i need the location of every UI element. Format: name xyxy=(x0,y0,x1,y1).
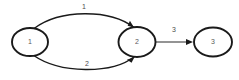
graph-diagram: 1 2 3 1 2 3 xyxy=(0,0,239,80)
edge-3-label: 3 xyxy=(172,26,176,33)
node-3-label: 3 xyxy=(211,38,215,45)
edge-2-path xyxy=(33,55,134,70)
node-1[interactable]: 1 xyxy=(12,28,48,56)
node-2[interactable]: 2 xyxy=(119,27,156,57)
edge-3-arrowhead xyxy=(186,39,193,45)
edge-1-label: 1 xyxy=(82,3,86,10)
node-3[interactable]: 3 xyxy=(194,28,232,57)
edge-3: 3 xyxy=(156,26,193,45)
node-1-label: 1 xyxy=(28,38,32,45)
edge-1-path xyxy=(34,14,134,29)
edge-2-label: 2 xyxy=(85,60,89,67)
node-2-label: 2 xyxy=(135,38,139,45)
graph-canvas: 1 2 3 1 2 3 xyxy=(0,0,239,80)
edge-1: 1 xyxy=(34,3,136,30)
edge-2: 2 xyxy=(33,55,136,70)
